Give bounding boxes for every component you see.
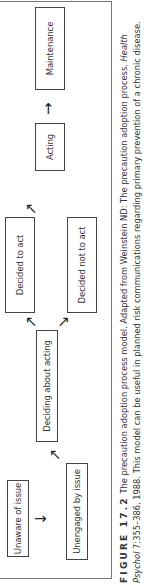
node-decided-to-act: Decided to act	[5, 217, 35, 313]
node-decided-not-to-act: Decided not to act	[67, 217, 97, 313]
figure-caption: FIGURE 17.2 The precaution adoption proc…	[118, 3, 143, 583]
node-maintenance: Maintenance	[35, 7, 65, 90]
figure-canvas: Unaware of issue ↓ Unengaged by issue ↗ …	[0, 0, 159, 585]
figure-label: FIGURE 17.2	[119, 496, 129, 583]
node-unaware-of-issue: Unaware of issue	[7, 480, 29, 557]
caption-text-cont: 7:355–386, 1988. This model can be usefu…	[132, 21, 142, 549]
arrow-right-icon: →	[41, 102, 56, 115]
node-acting: Acting	[35, 123, 65, 171]
arrow-down-right-icon: ↘	[56, 315, 71, 328]
caption-text: The precaution adoption process model. A…	[119, 64, 129, 493]
node-unengaged-by-issue: Unengaged by issue	[66, 463, 88, 560]
arrow-up-right-icon: ↗	[48, 448, 63, 461]
node-deciding-about-acting: Deciding about acting	[36, 330, 58, 442]
arrow-down-icon: ↓	[34, 512, 49, 525]
arrow-up-right-icon: ↗	[24, 202, 39, 215]
arrow-up-right-icon: ↗	[24, 315, 39, 328]
